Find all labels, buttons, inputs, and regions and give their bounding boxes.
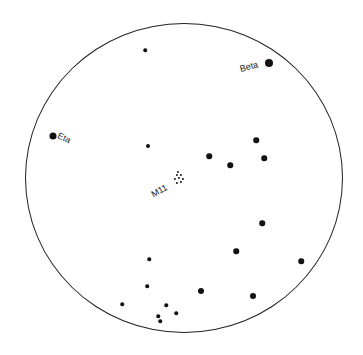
star-1 [265,59,273,67]
field-of-view-circle [25,23,343,333]
star-15 [120,302,124,306]
star-9 [233,248,239,254]
star-14 [250,293,256,299]
star-8 [259,220,265,226]
star-11 [147,257,151,261]
star-chart: BetaEtaM11 [0,0,363,355]
star-5 [206,153,212,159]
star-0 [143,48,147,52]
star-16 [164,303,168,307]
star-10 [298,258,304,264]
star-13 [198,288,204,294]
star-19 [158,319,162,323]
star-4 [253,137,259,143]
star-7 [227,162,233,168]
star-18 [156,314,160,318]
star-3 [146,144,150,148]
star-17 [174,311,178,315]
star-6 [261,155,267,161]
star-12 [145,284,149,288]
